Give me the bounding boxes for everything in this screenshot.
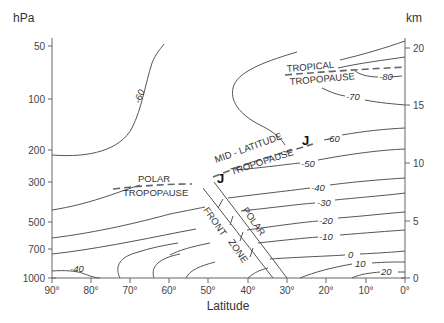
contour-label-minus40-bottom: -40	[70, 263, 84, 274]
x-tick-80: 80°	[83, 285, 98, 296]
x-tick-50: 50°	[200, 285, 215, 296]
contour-label-minus20: -20	[319, 215, 333, 226]
contour-label-minus70: -70	[346, 91, 360, 102]
left-tick-100: 100	[28, 94, 45, 105]
contour-label-10: 10	[355, 258, 366, 269]
left-tick-300: 300	[28, 177, 45, 188]
contour-label-0: 0	[348, 249, 354, 260]
x-tick-0: 0°	[400, 285, 410, 296]
right-tick-0: 0	[413, 273, 419, 284]
left-tick-200: 200	[28, 145, 45, 156]
x-tick-40: 40°	[240, 285, 255, 296]
left-tick-50: 50	[34, 41, 46, 52]
atmosphere-cross-section: hPa 50 100 200 300 500 700 1000 km 20 15…	[0, 0, 444, 323]
zone-label: ZONE	[226, 237, 250, 265]
x-tick-60: 60°	[161, 285, 176, 296]
contour-label-minus80: -80	[379, 71, 393, 82]
right-tick-20: 20	[413, 43, 425, 54]
contour-label-minus30: -30	[317, 197, 331, 208]
left-tick-700: 700	[28, 244, 45, 255]
x-tick-70: 70°	[122, 285, 137, 296]
right-tick-10: 10	[413, 158, 425, 169]
x-tick-90: 90°	[44, 285, 59, 296]
x-axis-title: Latitude	[207, 299, 250, 313]
left-tick-500: 500	[28, 217, 45, 228]
x-tick-10: 10°	[358, 285, 373, 296]
contour-label-minus50: -50	[301, 158, 315, 169]
right-tick-5: 5	[413, 216, 419, 227]
polar-tropopause-label-2: TROPOPAUSE	[123, 187, 188, 198]
right-axis-unit: km	[406, 11, 422, 25]
left-tick-1000: 1000	[23, 273, 46, 284]
front-label: FRONT	[201, 205, 229, 238]
contour-label-minus60: -60	[326, 133, 340, 144]
contour-minus60-left	[52, 44, 164, 156]
jet-stream-polar: J	[217, 171, 224, 186]
contour-label-minus40: -40	[311, 182, 325, 193]
right-tick-15: 15	[413, 100, 425, 111]
polar-tropopause-label-1: POLAR	[138, 173, 170, 184]
contour-label-20: 20	[380, 266, 392, 277]
left-axis-unit: hPa	[13, 11, 35, 25]
contour-label-minus10: -10	[319, 231, 333, 242]
x-tick-20: 20°	[318, 285, 333, 296]
x-tick-30: 30°	[279, 285, 294, 296]
jet-stream-subtropical: J	[302, 133, 309, 148]
